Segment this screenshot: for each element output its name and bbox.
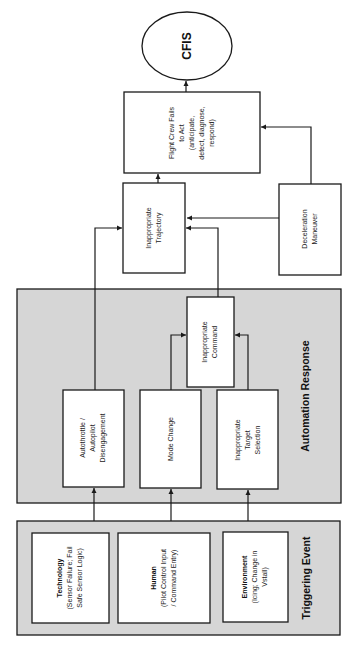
- edge-command-trajectory: [186, 228, 218, 297]
- environment-node: Environment (Icing; Change in Vstall): [223, 532, 288, 622]
- deceleration-line-1: Deceleration: [301, 209, 308, 248]
- triggering-event-title: Triggering Event: [300, 536, 312, 619]
- command-line-2: Command: [211, 326, 218, 358]
- autothrottle-line-3: Disengagement: [99, 413, 107, 462]
- environment-line-2: Vstall): [261, 567, 269, 586]
- technology-node: Technology (Sensor Failure; Fail Safe Se…: [32, 533, 109, 623]
- flight-crew-line-3: (anticipate,: [188, 116, 196, 150]
- command-line-1: Inappropriate: [201, 321, 209, 362]
- environment-line-1: (Icing; Change in: [251, 550, 259, 603]
- human-node: Human (Pilot Control Input / Command Ent…: [118, 533, 210, 623]
- target-selection-line-2: Target: [244, 430, 252, 450]
- mode-change-node: Mode Change: [140, 390, 201, 488]
- flight-crew-line-2: to Act: [178, 124, 185, 142]
- human-line-2: / Command Entry): [170, 550, 178, 607]
- inappropriate-trajectory-node: Inappropriate Trajectory: [123, 183, 185, 273]
- autothrottle-line-1: Autothrottle /: [79, 418, 86, 458]
- human-title: Human: [150, 566, 157, 590]
- deceleration-maneuver-node: Deceleration Maneuver: [279, 184, 341, 275]
- cfis-label: CFIS: [180, 32, 194, 59]
- target-selection-node: Inappropriate Target Selection: [217, 390, 278, 489]
- cfis-node: CFIS: [142, 12, 232, 80]
- automation-response-title: Automation Response: [299, 340, 311, 452]
- autothrottle-line-2: Autopilot: [89, 424, 97, 451]
- flight-crew-line-4: detect, diagnose,: [198, 106, 206, 159]
- trajectory-line-1: Inappropriate: [145, 207, 153, 248]
- mode-change-label: Mode Change: [167, 417, 175, 461]
- edge-deceleration-flight-crew: [261, 127, 311, 184]
- flow-diagram: CFIS Flight Crew Fails to Act (anticipat…: [0, 0, 354, 662]
- flight-crew-line-1: Flight Crew Fails: [168, 106, 176, 159]
- inappropriate-command-node: Inappropriate Command: [187, 297, 234, 387]
- trajectory-line-2: Trajectory: [155, 212, 163, 243]
- target-selection-line-1: Inappropriate: [234, 419, 242, 460]
- flight-crew-line-5: respond): [208, 119, 216, 147]
- environment-title: Environment: [241, 555, 248, 598]
- technology-line-1: (Sensor Failure; Fail: [66, 546, 74, 609]
- deceleration-line-2: Maneuver: [311, 213, 318, 245]
- technology-line-2: Safe Sensor Logic): [76, 548, 84, 608]
- target-selection-line-3: Selection: [254, 425, 261, 454]
- autothrottle-disengagement-node: Autothrottle / Autopilot Disengagement: [63, 390, 124, 487]
- flight-crew-node: Flight Crew Fails to Act (anticipate, de…: [124, 92, 260, 173]
- technology-title: Technology: [56, 559, 64, 598]
- human-line-1: (Pilot Control Input: [160, 549, 168, 607]
